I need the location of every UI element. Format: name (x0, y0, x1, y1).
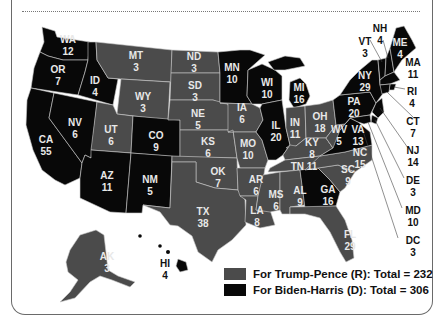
label-RI: RI4 (407, 86, 417, 110)
label-NC: NC15 (353, 147, 367, 171)
label-NJ: NJ14 (407, 145, 420, 169)
label-MS: MS6 (269, 189, 284, 213)
label-OR: OR7 (51, 64, 66, 88)
legend-label-republican: For Trump-Pence (R): Total = 232 (253, 268, 433, 280)
label-KY: KY8 (305, 137, 319, 161)
label-OH: OH18 (313, 111, 328, 135)
label-LA: LA8 (250, 205, 263, 229)
legend-swatch-republican (224, 268, 246, 280)
label-GA: GA16 (321, 184, 336, 208)
leader-de (375, 120, 404, 178)
label-IA: IA6 (237, 102, 247, 126)
state-HI-big[interactable] (176, 259, 188, 272)
label-WY: WY3 (135, 91, 151, 115)
label-PA: PA20 (347, 96, 360, 120)
label-MT: MT3 (129, 50, 143, 74)
label-AL: AL9 (293, 185, 306, 209)
label-CT: CT7 (406, 116, 419, 140)
label-CA: CA55 (39, 134, 53, 158)
label-ND: ND3 (187, 51, 201, 75)
state-CT[interactable] (380, 84, 390, 94)
label-NE: NE5 (191, 108, 205, 132)
label-DE: DE3 (406, 175, 420, 199)
label-HI: HI4 (160, 258, 170, 282)
leader-ri (394, 87, 405, 89)
label-AK: AK3 (100, 251, 114, 275)
label-UT: UT6 (104, 124, 117, 148)
label-MO: MO10 (240, 138, 256, 162)
state-HI-islands (138, 234, 142, 238)
leader-nj (380, 108, 408, 148)
label-SD: SD3 (188, 80, 202, 104)
state-MI-UP (268, 56, 305, 70)
legend-item-republican: For Trump-Pence (R): Total = 232 (224, 266, 433, 282)
label-TN: TN 11 (291, 161, 318, 173)
label-FL: FL29 (344, 229, 356, 253)
leader-dc (362, 128, 398, 238)
label-IN: IN11 (290, 117, 301, 141)
label-AZ: AZ11 (100, 170, 113, 194)
label-NH: NH4 (373, 23, 387, 47)
label-WV: WV5 (331, 124, 347, 148)
label-MI: MI16 (293, 82, 304, 106)
legend-label-democrat: For Biden-Harris (D): Total = 306 (253, 284, 429, 296)
label-NM: NM5 (142, 174, 158, 198)
label-OK: OK7 (211, 166, 226, 190)
label-TX: TX38 (197, 206, 210, 230)
label-WI: WI10 (261, 77, 273, 101)
legend-swatch-democrat (224, 284, 246, 296)
label-WA: WA12 (60, 34, 76, 58)
leader-md (368, 122, 402, 208)
label-KS: KS6 (201, 136, 215, 160)
label-VT: VT3 (359, 36, 372, 60)
label-IL: IL20 (270, 120, 281, 144)
label-MN: MN10 (224, 62, 240, 86)
label-AR: AR6 (249, 174, 263, 198)
state-AK[interactable] (60, 230, 135, 302)
label-ID: ID4 (90, 75, 100, 99)
legend-item-democrat: For Biden-Harris (D): Total = 306 (224, 282, 433, 298)
label-DC: DC3 (406, 235, 420, 259)
label-NY: NY29 (358, 70, 372, 94)
label-MA: MA11 (405, 57, 421, 81)
legend: For Trump-Pence (R): Total = 232 For Bid… (224, 266, 433, 298)
state-HI-islands (166, 250, 170, 254)
label-NV: NV6 (68, 117, 82, 141)
label-MD: MD10 (405, 205, 421, 229)
label-VA: VA13 (351, 124, 364, 148)
label-CO: CO9 (149, 130, 164, 154)
state-HI-islands (158, 244, 162, 248)
